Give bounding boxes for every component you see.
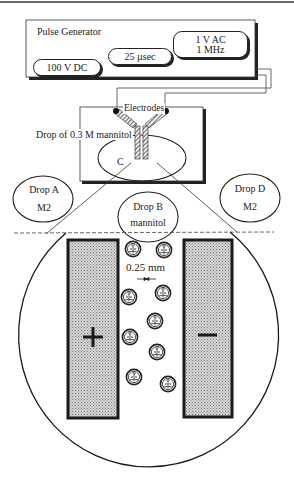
pulse-duration-label: 25 µsec: [124, 52, 155, 62]
drop-a-name: Drop A: [18, 184, 70, 195]
cell-5: [147, 313, 162, 328]
drop-a-ellipse: [13, 176, 73, 222]
pulse-duration-button[interactable]: 25 µsec: [108, 48, 172, 65]
ac-frequency-label: 1 MHz: [196, 45, 224, 55]
electrode-left-shaft: [135, 126, 140, 159]
drop-b-medium: mannitol: [122, 217, 174, 228]
drop-b-name: Drop B: [122, 201, 174, 212]
electrode-left-terminal: [113, 108, 119, 114]
cell-1: [125, 241, 140, 256]
negative-electrode-plate: [184, 240, 232, 417]
cell-7: [149, 344, 164, 359]
ac-voltage-label: 1 V AC: [195, 35, 225, 45]
chamber-center-label: C: [117, 156, 124, 167]
chamber-box: [80, 107, 203, 181]
pulse-generator-title: Pulse Generator: [37, 26, 101, 37]
gap-arrows: [137, 278, 156, 281]
ac-alignment-button[interactable]: 1 V AC 1 MHz: [173, 31, 248, 58]
cell-2: [156, 242, 171, 257]
dc-voltage-label: 100 V DC: [47, 63, 88, 73]
dc-voltage-button[interactable]: 100 V DC: [33, 59, 101, 76]
cell-4: [155, 285, 170, 300]
drop-a-medium: M2: [18, 202, 70, 213]
wire-inner: [165, 75, 266, 112]
electrodes-label: Electrodes: [123, 103, 165, 114]
electrode-right-shaft: [143, 126, 148, 159]
drop-d-medium: M2: [224, 201, 276, 212]
drop-d-ellipse: [220, 174, 280, 222]
gap-distance-label: 0.25 mm: [126, 262, 165, 273]
cell-8: [126, 369, 141, 384]
cell-3: [121, 289, 136, 304]
mannitol-drop-label: Drop of 0.3 M mannitol: [35, 129, 133, 140]
drop-d-name: Drop D: [224, 183, 276, 194]
cell-9: [160, 376, 175, 391]
cell-6: [122, 329, 137, 344]
